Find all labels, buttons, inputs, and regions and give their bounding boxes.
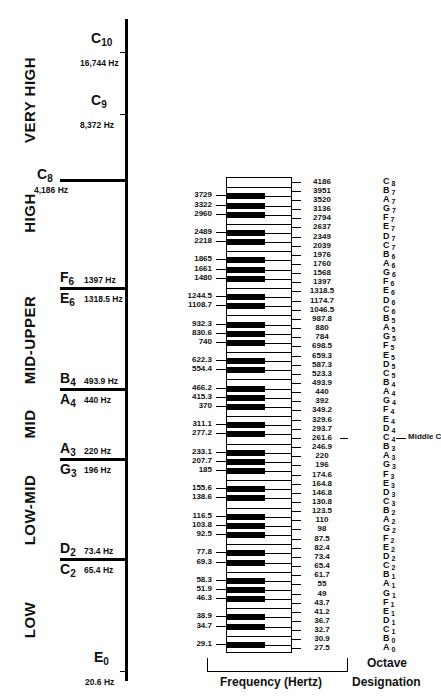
black-key-tick — [216, 589, 226, 590]
black-key — [227, 331, 265, 337]
white-key-tick — [292, 337, 301, 338]
hz-lower: 440 Hz — [84, 395, 111, 405]
white-key-divider — [227, 224, 291, 225]
white-key-tick — [292, 410, 301, 411]
black-key — [227, 459, 265, 465]
black-key-tick — [216, 305, 226, 306]
black-key-tick — [216, 516, 226, 517]
white-key-tick — [292, 255, 301, 256]
white-key-frequency: 196 — [302, 460, 342, 469]
white-key-frequency: 2794 — [302, 213, 342, 222]
white-key-frequency: 164.8 — [302, 479, 342, 488]
black-key — [227, 358, 265, 364]
black-key-tick — [216, 259, 226, 260]
white-key-divider — [227, 444, 291, 445]
black-key-frequency: 51.9 — [178, 584, 212, 593]
black-key-frequency: 92.5 — [178, 529, 212, 538]
white-key-frequency: 220 — [302, 451, 342, 460]
white-key-frequency: 65.4 — [302, 561, 342, 570]
note-upper: A3 — [60, 440, 76, 458]
black-key-tick — [216, 562, 226, 563]
frequency-bracket — [207, 658, 348, 672]
black-key — [227, 239, 265, 245]
frequency-axis — [125, 19, 128, 681]
white-key-frequency: 98 — [302, 524, 342, 533]
black-key — [227, 230, 265, 236]
note-upper: F6 — [60, 269, 74, 287]
hz-c8: 4,186 Hz — [34, 185, 68, 195]
black-key-tick — [216, 360, 226, 361]
black-key-tick — [216, 433, 226, 434]
white-key-tick — [292, 529, 301, 530]
black-key-tick — [216, 534, 226, 535]
white-key-frequency: 246.9 — [302, 442, 342, 451]
white-key-tick — [292, 475, 301, 476]
black-key-tick — [216, 388, 226, 389]
black-key-tick — [216, 644, 226, 645]
note-upper: D2 — [60, 540, 76, 558]
note-lower: C2 — [60, 561, 76, 579]
black-key — [227, 578, 265, 584]
white-key-divider — [227, 544, 291, 545]
black-key — [227, 257, 265, 263]
black-key-tick — [216, 626, 226, 627]
black-key — [227, 642, 265, 648]
tick-e0 — [120, 671, 126, 672]
white-key-tick — [292, 420, 301, 421]
white-key-tick — [292, 465, 301, 466]
black-key-frequency: 77.8 — [178, 547, 212, 556]
black-key — [227, 495, 265, 501]
black-key — [227, 614, 265, 620]
black-key — [227, 587, 265, 593]
white-key-frequency: 698.5 — [302, 341, 342, 350]
black-key-frequency: 233.1 — [178, 447, 212, 456]
note-c8: C8 — [37, 166, 53, 184]
black-key-frequency: 58.3 — [178, 575, 212, 584]
white-key-tick — [292, 401, 301, 402]
white-key-frequency: 987.8 — [302, 314, 342, 323]
white-key-frequency: 3520 — [302, 195, 342, 204]
black-key-tick — [216, 424, 226, 425]
white-key-tick — [292, 621, 301, 622]
black-key-tick — [216, 205, 226, 206]
band-label: MID — [21, 410, 38, 439]
white-key-tick — [292, 218, 301, 219]
black-key — [227, 193, 265, 199]
black-key-frequency: 34.7 — [178, 621, 212, 630]
tick-c10 — [120, 52, 126, 53]
octave-designation: A0 — [383, 642, 395, 653]
white-key-tick — [292, 319, 301, 320]
black-key-tick — [216, 525, 226, 526]
black-key-frequency: 415.3 — [178, 392, 212, 401]
band-label: LOW-MID — [21, 475, 38, 546]
black-key-frequency: 116.5 — [178, 511, 212, 520]
white-key-tick — [292, 603, 301, 604]
white-key-frequency: 2349 — [302, 232, 342, 241]
white-key-frequency: 3136 — [302, 204, 342, 213]
white-key-frequency: 1397 — [302, 277, 342, 286]
black-key-tick — [216, 470, 226, 471]
black-key — [227, 267, 265, 273]
white-key-divider — [227, 508, 291, 509]
middle-c-leader — [396, 438, 406, 439]
note-lower: A4 — [60, 391, 76, 409]
white-key-frequency: 41.2 — [302, 607, 342, 616]
black-key-tick — [216, 497, 226, 498]
hz-upper: 1397 Hz — [84, 275, 116, 285]
band-label: HIGH — [21, 193, 38, 233]
black-key-tick — [216, 269, 226, 270]
black-key — [227, 340, 265, 346]
white-key-tick — [292, 484, 301, 485]
white-key-tick — [292, 365, 301, 366]
white-key-frequency: 1046.5 — [302, 305, 342, 314]
white-key-frequency: 30.9 — [302, 634, 342, 643]
black-key — [227, 322, 265, 328]
black-key — [227, 550, 265, 556]
hz-lower: 1318.5 Hz — [84, 294, 123, 304]
white-key-tick — [292, 200, 301, 201]
white-key-frequency: 27.5 — [302, 643, 342, 652]
black-key-frequency: 46.3 — [178, 593, 212, 602]
black-key-tick — [216, 369, 226, 370]
white-key-tick — [292, 502, 301, 503]
white-key-frequency: 43.7 — [302, 598, 342, 607]
